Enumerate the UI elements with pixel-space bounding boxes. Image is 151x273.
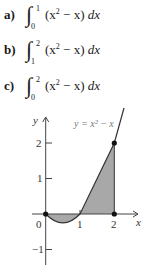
point-2-0 — [112, 211, 117, 216]
y-tick-label-1: 1 — [37, 172, 43, 184]
y-axis-label: y — [32, 114, 38, 126]
x-tick-label-1: 1 — [77, 218, 83, 230]
function-label: y = x² − x — [73, 118, 114, 129]
x-axis-label: x — [135, 216, 141, 228]
y-tick-label-neg1: −1 — [32, 243, 44, 255]
x-tick-label-2: 2 — [111, 218, 117, 230]
y-tick-label-2: 2 — [36, 137, 42, 149]
x-tick-label-0: 0 — [36, 218, 42, 230]
point-origin — [43, 211, 48, 216]
point-2-2 — [112, 140, 117, 145]
function-graph: y = x² − x y x 0 1 2 2 1 −1 — [0, 0, 151, 273]
